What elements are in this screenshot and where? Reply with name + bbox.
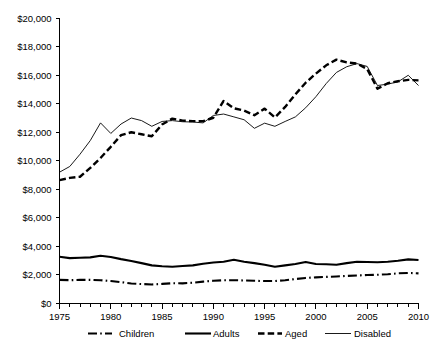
x-axis-tick-label: 2010	[408, 311, 429, 322]
legend-label-children: Children	[119, 328, 154, 339]
line-chart: $0$2,000$4,000$6,000$8,000$10,000$12,000…	[0, 0, 433, 358]
x-axis-tick-label: 1990	[203, 311, 224, 322]
series-line-aged	[60, 60, 419, 181]
legend-label-aged: Aged	[285, 328, 307, 339]
y-axis-tick-label: $2,000	[22, 269, 51, 280]
x-axis-tick-labels: 19751980198519901995200020052010	[49, 311, 429, 322]
series-line-children	[60, 273, 419, 285]
y-axis-tick-label: $8,000	[22, 184, 51, 195]
y-axis-tick-label: $18,000	[17, 41, 51, 52]
y-axis-tick-marks	[56, 18, 60, 303]
x-axis-tick-label: 2000	[305, 311, 326, 322]
y-axis-tick-label: $4,000	[22, 241, 51, 252]
x-axis-tick-label: 1995	[254, 311, 275, 322]
legend-label-adults: Adults	[213, 328, 240, 339]
y-axis-tick-label: $20,000	[17, 13, 51, 24]
x-axis-tick-label: 1975	[49, 311, 70, 322]
y-axis-tick-label: $16,000	[17, 70, 51, 81]
x-axis-tick-marks	[60, 303, 419, 309]
x-axis-tick-label: 1985	[152, 311, 173, 322]
y-axis-tick-label: $0	[41, 298, 52, 309]
legend-label-disabled: Disabled	[354, 328, 391, 339]
chart-legend: ChildrenAdultsAgedDisabled	[88, 328, 391, 339]
data-series-group	[60, 60, 419, 285]
y-axis-tick-label: $10,000	[17, 155, 51, 166]
y-axis-tick-label: $14,000	[17, 98, 51, 109]
y-axis-tick-label: $6,000	[22, 212, 51, 223]
x-axis-tick-label: 1980	[100, 311, 121, 322]
y-axis-tick-label: $12,000	[17, 127, 51, 138]
x-axis-tick-label: 2005	[357, 311, 378, 322]
series-line-adults	[60, 256, 419, 267]
y-axis-tick-labels: $0$2,000$4,000$6,000$8,000$10,000$12,000…	[17, 13, 51, 309]
chart-container: $0$2,000$4,000$6,000$8,000$10,000$12,000…	[0, 0, 433, 358]
series-line-disabled	[60, 64, 419, 173]
